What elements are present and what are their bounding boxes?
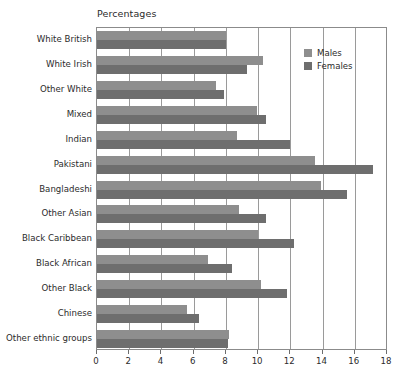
category-label: Pakistani xyxy=(0,159,92,169)
category-label: Black African xyxy=(0,258,92,268)
bar-females-other-black xyxy=(97,289,287,298)
bar-females-white-irish xyxy=(97,65,247,74)
category-label: Other Asian xyxy=(0,208,92,218)
bar-males-black-african xyxy=(97,255,208,264)
x-tick-label: 16 xyxy=(348,356,359,366)
category-label: White Irish xyxy=(0,59,92,69)
gridline xyxy=(323,28,324,349)
category-label: Indian xyxy=(0,134,92,144)
x-tick-label: 12 xyxy=(284,356,295,366)
x-tick-mark xyxy=(322,350,323,354)
chart-legend: MalesFemales xyxy=(304,46,384,72)
x-tick-label: 6 xyxy=(190,356,195,366)
category-axis-labels: White BritishWhite IrishOther WhiteMixed… xyxy=(0,27,92,350)
bar-males-other-ethnic-groups xyxy=(97,330,229,339)
x-tick-mark xyxy=(193,350,194,354)
bar-females-other-white xyxy=(97,90,224,99)
category-label: Chinese xyxy=(0,308,92,318)
x-tick-mark xyxy=(225,350,226,354)
category-label: White British xyxy=(0,34,92,44)
x-tick-label: 4 xyxy=(158,356,163,366)
bar-females-white-british xyxy=(97,40,226,49)
bar-males-black-caribbean xyxy=(97,230,258,239)
bar-females-chinese xyxy=(97,314,199,323)
bar-females-other-ethnic-groups xyxy=(97,339,228,348)
gridline xyxy=(355,28,356,349)
x-tick-mark xyxy=(128,350,129,354)
bar-females-black-african xyxy=(97,264,232,273)
x-tick-mark xyxy=(386,350,387,354)
bar-males-pakistani xyxy=(97,156,315,165)
legend-label: Females xyxy=(317,61,353,71)
legend-item-females: Females xyxy=(304,59,384,72)
x-tick-label: 10 xyxy=(252,356,263,366)
x-tick-mark xyxy=(96,350,97,354)
legend-swatch-icon xyxy=(304,62,312,70)
bar-females-indian xyxy=(97,140,290,149)
x-tick-mark xyxy=(354,350,355,354)
bar-males-other-white xyxy=(97,81,216,90)
category-label: Bangladeshi xyxy=(0,184,92,194)
plot-area xyxy=(96,27,387,350)
bar-males-indian xyxy=(97,131,237,140)
legend-label: Males xyxy=(317,48,342,58)
bar-females-mixed xyxy=(97,115,266,124)
x-tick-label: 0 xyxy=(93,356,98,366)
category-label: Other ethnic groups xyxy=(0,333,92,343)
category-label: Mixed xyxy=(0,109,92,119)
bar-males-other-black xyxy=(97,280,261,289)
bar-females-pakistani xyxy=(97,165,373,174)
bar-females-bangladeshi xyxy=(97,190,347,199)
x-tick-label: 18 xyxy=(381,356,392,366)
x-tick-mark xyxy=(289,350,290,354)
chart-title: Percentages xyxy=(97,8,157,19)
bar-males-other-asian xyxy=(97,205,239,214)
category-label: Other White xyxy=(0,84,92,94)
bar-males-mixed xyxy=(97,106,257,115)
bar-males-bangladeshi xyxy=(97,181,321,190)
bar-males-white-irish xyxy=(97,56,263,65)
bar-males-chinese xyxy=(97,305,187,314)
legend-swatch-icon xyxy=(304,49,312,57)
bar-females-black-caribbean xyxy=(97,239,294,248)
x-tick-mark xyxy=(257,350,258,354)
bar-females-other-asian xyxy=(97,214,266,223)
bar-chart: Percentages White BritishWhite IrishOthe… xyxy=(0,0,402,386)
legend-item-males: Males xyxy=(304,46,384,59)
category-label: Black Caribbean xyxy=(0,233,92,243)
bar-males-white-british xyxy=(97,31,226,40)
category-label: Other Black xyxy=(0,283,92,293)
x-axis: 024681012141618 xyxy=(96,350,387,380)
x-tick-label: 14 xyxy=(316,356,327,366)
x-tick-mark xyxy=(160,350,161,354)
x-tick-label: 2 xyxy=(125,356,130,366)
x-tick-label: 8 xyxy=(222,356,227,366)
